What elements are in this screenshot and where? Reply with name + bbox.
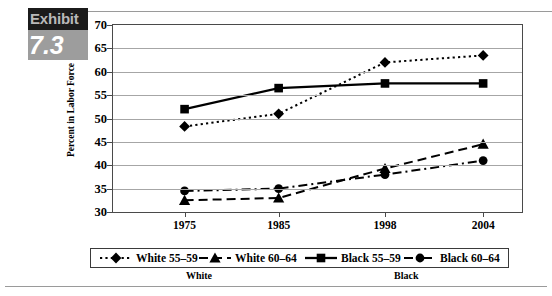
series-line [185, 144, 484, 200]
gridline [113, 95, 522, 96]
legend-swatch-square-icon [304, 251, 338, 265]
x-tick-label: 1985 [249, 219, 309, 231]
legend-swatch-circle-icon [403, 251, 437, 265]
gridline [113, 142, 522, 143]
legend-item-3[interactable]: Black 55–59 [304, 249, 401, 267]
legend-label: Black 60–64 [440, 252, 500, 264]
data-point [179, 121, 190, 132]
y-tick-label: 30 [77, 206, 107, 219]
series-line [185, 55, 484, 126]
group-label-2: Black [366, 270, 446, 281]
bottom-divider [5, 286, 547, 287]
data-point [479, 156, 488, 165]
series-2 [179, 139, 489, 205]
data-point [273, 108, 284, 119]
series-3 [180, 79, 487, 113]
top-divider [56, 11, 552, 12]
data-point [479, 79, 488, 88]
legend-label: Black 55–59 [341, 252, 401, 264]
data-point [381, 79, 390, 88]
exhibit-number-label: 7.3 [28, 30, 88, 60]
data-point [180, 105, 189, 114]
y-tick-label: 35 [77, 183, 107, 196]
data-point [380, 57, 391, 68]
exhibit-figure: Exhibit 7.3 Percent in Labor Force 30354… [0, 0, 552, 296]
gridline [113, 189, 522, 190]
data-point [478, 50, 489, 61]
legend-swatch-diamond-icon [99, 251, 133, 265]
y-tick-label: 55 [77, 89, 107, 102]
group-label-1: White [159, 270, 239, 281]
legend-item-2[interactable]: White 60–64 [198, 249, 297, 267]
x-tick-label: 2004 [453, 219, 513, 231]
data-point [274, 84, 283, 93]
legend-swatch-triangle-icon [198, 251, 232, 265]
x-tick-label: 1975 [155, 219, 215, 231]
exhibit-word-label: Exhibit [28, 8, 88, 30]
x-tick-label: 1998 [355, 219, 415, 231]
exhibit-badge: Exhibit 7.3 [28, 8, 88, 60]
gridline [113, 119, 522, 120]
plot-area [112, 24, 523, 213]
series-line [185, 83, 484, 109]
legend-label: White 60–64 [235, 252, 297, 264]
y-tick-label: 45 [77, 136, 107, 149]
gridline [113, 72, 522, 73]
data-point [180, 187, 189, 196]
data-point [478, 139, 489, 149]
legend-item-4[interactable]: Black 60–64 [403, 249, 500, 267]
y-tick-label: 40 [77, 159, 107, 172]
chart-legend: White 55–59White 60–64Black 55–59Black 6… [90, 248, 509, 268]
legend-item-1[interactable]: White 55–59 [99, 249, 198, 267]
y-tick-label: 50 [77, 113, 107, 126]
legend-label: White 55–59 [136, 252, 198, 264]
data-point [381, 170, 390, 179]
gridline [113, 48, 522, 49]
y-tick-label: 60 [77, 66, 107, 79]
y-axis-title: Percent in Labor Force [66, 30, 76, 190]
gridline [113, 165, 522, 166]
